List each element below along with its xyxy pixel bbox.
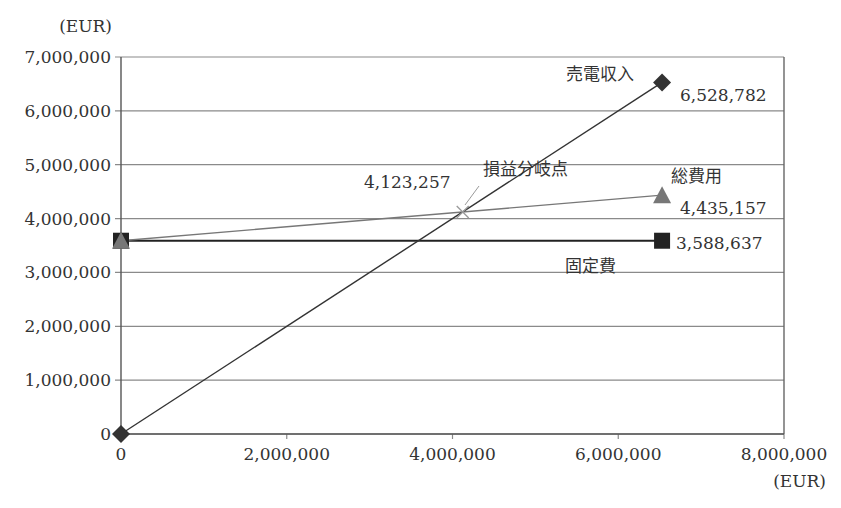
total-cost-series-label: 総費用 (671, 166, 722, 186)
y-tick-label: 3,000,000 (24, 262, 111, 282)
break-even-chart: 01,000,0002,000,0003,000,0004,000,0005,0… (0, 0, 841, 508)
y-axis-unit: (EUR) (59, 16, 112, 36)
x-axis-tick-labels: 02,000,0004,000,0006,000,0008,000,000 (116, 444, 828, 464)
series-line (121, 195, 662, 241)
y-tick-label: 2,000,000 (24, 316, 111, 336)
breakeven-value-label: 4,123,257 (364, 172, 451, 192)
x-tick-label: 6,000,000 (575, 444, 662, 464)
y-tick-label: 4,000,000 (24, 209, 111, 229)
y-tick-label: 0 (100, 424, 111, 444)
y-tick-label: 6,000,000 (24, 101, 111, 121)
diamond-marker-icon (112, 425, 130, 443)
y-tick-label: 1,000,000 (24, 370, 111, 390)
y-tick-label: 7,000,000 (24, 47, 111, 67)
square-marker-icon (654, 233, 670, 249)
fixed-cost-end-value: 3,588,637 (676, 233, 763, 253)
revenue-end-value: 6,528,782 (680, 85, 767, 105)
revenue-series-label: 売電収入 (566, 64, 634, 84)
breakeven-point-label: 損益分岐点 (483, 159, 568, 179)
fixed-cost-series-label: 固定費 (565, 256, 616, 276)
total-cost-end-value: 4,435,157 (680, 198, 767, 218)
x-tick-label: 2,000,000 (243, 444, 330, 464)
diamond-marker-icon (653, 73, 671, 91)
x-axis-unit: (EUR) (773, 471, 826, 491)
x-tick-label: 0 (116, 444, 127, 464)
triangle-marker-icon (653, 186, 671, 203)
x-tick-label: 8,000,000 (741, 444, 828, 464)
x-tick-label: 4,000,000 (409, 444, 496, 464)
y-tick-label: 5,000,000 (24, 155, 111, 175)
y-axis-tick-labels: 01,000,0002,000,0003,000,0004,000,0005,0… (24, 47, 111, 444)
